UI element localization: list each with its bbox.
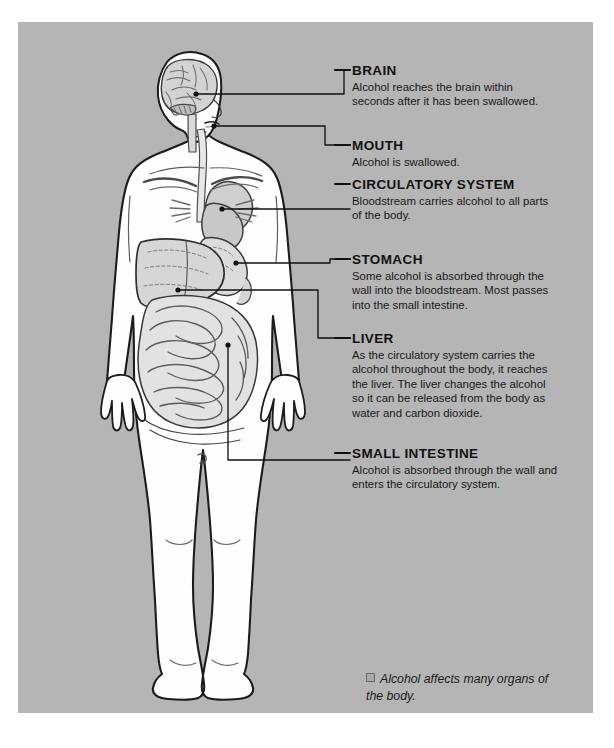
callout-brain: BRAIN Alcohol reaches the brain within s… — [352, 64, 558, 109]
callout-body-mouth: Alcohol is swallowed. — [352, 155, 558, 170]
callout-liver: LIVER As the circulatory system carries … — [352, 332, 558, 420]
callout-body-stomach: Some alcohol is absorbed through the wal… — [352, 269, 558, 313]
leader-dot-liver — [175, 287, 180, 292]
leader-dot-mouth — [211, 123, 216, 128]
figure-caption-text: Alcohol affects many organs of the body. — [366, 672, 548, 703]
callout-small-intestine: SMALL INTESTINE Alcohol is absorbed thro… — [352, 447, 558, 492]
callout-heading-mouth: MOUTH — [352, 139, 558, 154]
callout-heading-brain: BRAIN — [352, 64, 558, 79]
figure-caption: Alcohol affects many organs of the body. — [366, 671, 566, 705]
square-bullet-icon — [366, 673, 375, 682]
leader-dot-brain — [193, 91, 198, 96]
leader-dot-small-intestine — [225, 342, 230, 347]
leader-dot-circulatory — [219, 206, 224, 211]
callout-circulatory-system: CIRCULATORY SYSTEM Bloodstream carries a… — [352, 178, 558, 223]
callout-heading-small-intestine: SMALL INTESTINE — [352, 447, 558, 462]
callout-heading-liver: LIVER — [352, 332, 558, 347]
callout-stomach: STOMACH Some alcohol is absorbed through… — [352, 253, 558, 312]
leader-mouth — [214, 126, 350, 145]
callout-body-circulatory-system: Bloodstream carries alcohol to all parts… — [352, 194, 558, 223]
callout-body-brain: Alcohol reaches the brain within seconds… — [352, 80, 558, 109]
callout-mouth: MOUTH Alcohol is swallowed. — [352, 139, 558, 169]
diagram-page: BRAIN Alcohol reaches the brain within s… — [0, 0, 614, 748]
callout-body-small-intestine: Alcohol is absorbed through the wall and… — [352, 463, 558, 492]
callout-heading-circulatory-system: CIRCULATORY SYSTEM — [352, 178, 558, 193]
callout-heading-stomach: STOMACH — [352, 253, 558, 268]
leader-dot-stomach — [233, 260, 238, 265]
callout-body-liver: As the circulatory system carries the al… — [352, 348, 558, 421]
